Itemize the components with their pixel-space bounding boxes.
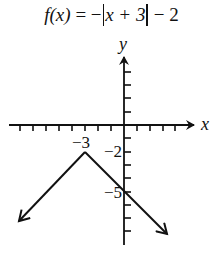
x-axis (9, 125, 194, 131)
y-tick-label-neg2: −2 (104, 142, 122, 161)
y-axis-label: y (117, 34, 127, 54)
y-axis (124, 57, 131, 245)
x-tick-label-neg3: −3 (72, 133, 90, 152)
y-axis-ticks (124, 72, 131, 231)
function-line (19, 152, 167, 234)
plot-area: x y −3 −2 −5 (0, 0, 223, 253)
x-axis-label: x (200, 114, 209, 134)
y-tick-label-neg5: −5 (104, 183, 122, 202)
